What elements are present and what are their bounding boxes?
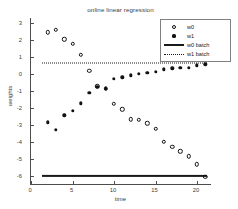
y-tick-label: -5 xyxy=(6,156,24,162)
legend-symbol-solid-line-icon xyxy=(161,44,187,46)
data-point-w1 xyxy=(179,66,182,69)
y-tick-mark xyxy=(31,40,34,41)
y-tick-label: -2 xyxy=(6,105,24,111)
data-point-w0 xyxy=(187,154,191,158)
y-tick-label: 1 xyxy=(6,54,24,60)
legend-symbol-open-circle-icon xyxy=(161,25,187,29)
data-point-w0 xyxy=(128,117,132,121)
legend-label: w0 xyxy=(187,24,194,30)
data-point-w1 xyxy=(195,64,198,67)
x-tick-label: 5 xyxy=(70,187,73,193)
y-tick-label: 2 xyxy=(6,37,24,43)
x-tick-label: 0 xyxy=(28,187,31,193)
data-point-w1 xyxy=(112,77,115,80)
y-axis-label: weights xyxy=(7,73,13,119)
data-point-w0 xyxy=(170,145,174,149)
data-point-w0 xyxy=(95,84,99,88)
data-point-w0 xyxy=(178,149,182,153)
data-point-w1 xyxy=(146,71,149,74)
legend-symbol-filled-dot-icon xyxy=(161,34,187,37)
y-tick-mark xyxy=(31,176,34,177)
filled-dot-icon xyxy=(172,34,175,37)
chart-title: online linear regression xyxy=(30,6,211,13)
data-point-w1 xyxy=(121,76,124,79)
data-point-w0 xyxy=(45,30,49,34)
x-tick-mark xyxy=(114,181,115,184)
x-tick-mark xyxy=(73,181,74,184)
data-point-w0 xyxy=(203,174,207,178)
y-tick-label: -1 xyxy=(6,88,24,94)
data-point-w0 xyxy=(120,107,124,111)
data-point-w0 xyxy=(137,118,141,122)
y-tick-mark xyxy=(31,142,34,143)
legend-label: w0 batch xyxy=(187,42,209,48)
data-point-w0 xyxy=(87,68,91,72)
legend-item-w1-batch[interactable]: w1 batch xyxy=(161,50,230,59)
data-point-w1 xyxy=(137,72,140,75)
y-tick-mark xyxy=(31,108,34,109)
data-point-w0 xyxy=(112,101,116,105)
data-point-w1 xyxy=(79,101,82,104)
x-tick-mark xyxy=(31,181,32,184)
y-tick-mark xyxy=(31,74,34,75)
data-point-w1 xyxy=(87,91,90,94)
y-tick-label: 0 xyxy=(6,71,24,77)
chart-figure: online linear regression weights time 32… xyxy=(0,0,238,209)
x-tick-label: 20 xyxy=(193,187,199,193)
data-point-w1 xyxy=(170,67,173,70)
y-tick-mark xyxy=(31,57,34,58)
data-point-w1 xyxy=(63,114,66,117)
x-tick-label: 10 xyxy=(110,187,116,193)
data-point-w1 xyxy=(187,66,190,69)
x-tick-label: 15 xyxy=(151,187,157,193)
data-point-w0 xyxy=(62,37,66,41)
data-point-w0 xyxy=(145,121,149,125)
chart-legend: w0w1w0 batchw1 batch xyxy=(160,19,231,62)
dotted-line-icon xyxy=(164,54,184,55)
data-point-w1 xyxy=(71,109,74,112)
data-point-w1 xyxy=(162,68,165,71)
data-point-w1 xyxy=(204,62,207,65)
y-tick-label: -4 xyxy=(6,139,24,145)
data-point-w1 xyxy=(54,128,57,131)
reference-line-w1-batch xyxy=(42,63,207,64)
data-point-w0 xyxy=(153,127,157,131)
x-tick-mark xyxy=(197,181,198,184)
x-axis-label: time xyxy=(30,196,211,202)
reference-line-w0-batch xyxy=(42,175,207,177)
legend-item-w1[interactable]: w1 xyxy=(161,32,230,41)
x-tick-mark xyxy=(156,181,157,184)
data-point-w0 xyxy=(162,140,166,144)
y-tick-label: 3 xyxy=(6,20,24,26)
data-point-w0 xyxy=(195,162,199,166)
y-tick-mark xyxy=(31,125,34,126)
data-point-w0 xyxy=(104,87,108,91)
data-point-w0 xyxy=(70,42,74,46)
y-tick-label: -6 xyxy=(6,173,24,179)
legend-label: w1 batch xyxy=(187,51,209,57)
data-point-w0 xyxy=(79,53,83,57)
y-tick-mark xyxy=(31,91,34,92)
legend-symbol-dotted-line-icon xyxy=(161,54,187,55)
open-circle-icon xyxy=(172,25,176,29)
legend-item-w0[interactable]: w0 xyxy=(161,23,230,32)
y-tick-mark xyxy=(31,23,34,24)
data-point-w1 xyxy=(46,121,49,124)
legend-item-w0-batch[interactable]: w0 batch xyxy=(161,41,230,50)
legend-label: w1 xyxy=(187,33,194,39)
data-point-w1 xyxy=(154,70,157,73)
y-tick-label: -3 xyxy=(6,122,24,128)
y-tick-mark xyxy=(31,159,34,160)
data-point-w1 xyxy=(129,74,132,77)
solid-line-icon xyxy=(164,44,184,46)
data-point-w0 xyxy=(54,28,58,32)
